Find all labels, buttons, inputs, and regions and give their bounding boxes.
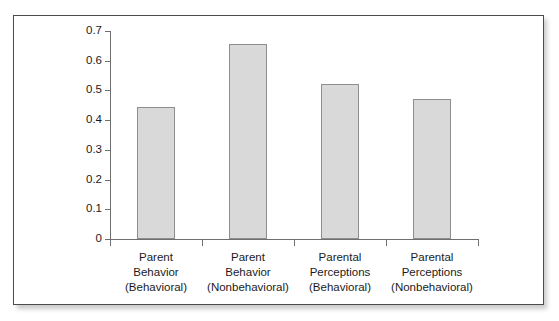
y-axis-tick — [105, 90, 110, 91]
y-axis-tick-label: 0.1 — [58, 203, 102, 214]
y-axis-tick-label: 0.7 — [58, 25, 102, 36]
y-axis-tick — [105, 150, 110, 151]
x-axis-tick — [110, 240, 111, 246]
y-axis-line — [110, 31, 111, 240]
x-axis-tick — [202, 240, 203, 246]
y-axis-tick-label: 0 — [58, 233, 102, 244]
y-axis-tick-label-text: 0.3 — [62, 144, 102, 155]
y-axis-tick — [105, 209, 110, 210]
bar — [137, 107, 175, 239]
y-axis-tick-label: 0.3 — [58, 144, 102, 155]
y-axis-tick-label-text: 0.2 — [62, 174, 102, 185]
x-axis-category-label-line: Parental — [377, 250, 487, 265]
y-axis-tick-label-text: 0.5 — [62, 84, 102, 95]
y-axis-tick-label-text: 0.7 — [62, 25, 102, 36]
y-axis-tick-label: 0.5 — [58, 84, 102, 95]
x-axis-tick — [294, 240, 295, 246]
y-axis-tick-label: 0.4 — [58, 114, 102, 125]
bar — [413, 99, 451, 239]
y-axis-tick-label-text: 0.4 — [62, 114, 102, 125]
y-axis-tick-label: 0.6 — [58, 55, 102, 66]
bar-chart-plot-area: 0.70.60.50.40.30.20.10 ParentBehavior(Be… — [0, 0, 559, 321]
y-axis-tick-label: 0.2 — [58, 174, 102, 185]
x-axis-category-label: ParentalPerceptions(Nonbehavioral) — [377, 250, 487, 296]
y-axis-tick — [105, 180, 110, 181]
bar — [321, 84, 359, 239]
figure: 0.70.60.50.40.30.20.10 ParentBehavior(Be… — [0, 0, 559, 321]
x-axis-tick — [478, 240, 479, 246]
x-axis-tick — [386, 240, 387, 246]
bar — [229, 44, 267, 239]
y-axis-tick — [105, 61, 110, 62]
y-axis-tick-label-text: 0.6 — [62, 55, 102, 66]
y-axis-tick-label-text: 0 — [62, 233, 102, 244]
y-axis-tick-label-text: 0.1 — [62, 203, 102, 214]
y-axis-tick — [105, 120, 110, 121]
x-axis-category-label-line: (Nonbehavioral) — [377, 280, 487, 295]
y-axis-tick — [105, 31, 110, 32]
x-axis-category-label-line: Perceptions — [377, 265, 487, 280]
